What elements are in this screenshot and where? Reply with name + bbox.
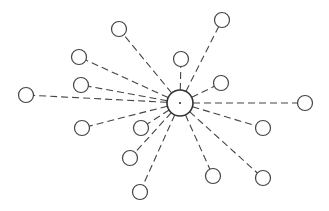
leaf-node-n15: [133, 185, 148, 200]
hub-node-group: [167, 90, 193, 116]
leaf-node-n6: [214, 76, 229, 91]
leaf-node-n13: [206, 169, 221, 184]
leaf-node-n14: [256, 171, 271, 186]
leaf-node-n8: [298, 96, 313, 111]
edge-hub-n10: [147, 110, 169, 124]
leaf-node-n10: [134, 121, 149, 136]
leaf-node-n2: [112, 22, 127, 37]
leaf-node-n4: [174, 52, 189, 67]
leaf-node-n9: [75, 121, 90, 136]
star-network-diagram: [0, 0, 329, 211]
leaf-node-n12: [123, 151, 138, 166]
edges-group: [34, 27, 298, 186]
leaf-node-n5: [74, 78, 89, 93]
edge-hub-n6: [192, 86, 215, 97]
leaf-node-n3: [72, 50, 87, 65]
edge-hub-n14: [190, 112, 258, 173]
edge-hub-n2: [124, 35, 172, 93]
edge-hub-n7: [34, 95, 168, 102]
edge-hub-n4: [180, 67, 181, 91]
leaf-node-n11: [256, 121, 271, 136]
edge-hub-n3: [86, 60, 168, 98]
edge-hub-n13: [185, 115, 210, 169]
leaf-node-n7: [19, 88, 34, 103]
edge-hub-n9: [89, 106, 167, 126]
leaf-nodes-group: [19, 13, 313, 200]
hub-center-dot: [179, 102, 181, 104]
leaf-node-n1: [215, 13, 230, 28]
